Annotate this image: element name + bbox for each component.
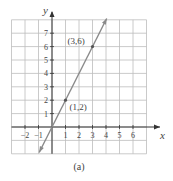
x-tick-label: 2 xyxy=(77,131,81,140)
point-label: (3,6) xyxy=(68,36,85,46)
x-tick-label: 4 xyxy=(104,131,108,140)
figure-caption: (a) xyxy=(73,161,84,173)
line-arrow-start-icon xyxy=(39,146,44,152)
y-axis-label: y xyxy=(42,4,48,16)
y-axis-arrow-icon xyxy=(50,11,55,17)
point-label: (1,2) xyxy=(70,102,87,112)
x-axis-label: x xyxy=(159,129,165,141)
x-tick-label: 5 xyxy=(118,131,122,140)
y-tick-label: 6 xyxy=(44,43,48,52)
x-tick-label: −1 xyxy=(34,131,43,140)
x-tick-label: 6 xyxy=(131,131,135,140)
y-tick-label: 1 xyxy=(44,110,48,119)
y-tick-label: 3 xyxy=(44,83,48,92)
point-marker xyxy=(91,45,94,48)
point-marker xyxy=(64,99,67,102)
y-tick-label: 5 xyxy=(44,56,48,65)
x-tick-label: 1 xyxy=(64,131,68,140)
x-tick-label: 3 xyxy=(91,131,95,140)
x-tick-label: −2 xyxy=(21,131,30,140)
y-tick-label: 7 xyxy=(44,29,48,38)
coordinate-plane: −2−11234561234567 (1,2)(3,6) x y (a) xyxy=(0,0,173,181)
y-tick-label: 4 xyxy=(44,69,48,78)
tick-labels: −2−11234561234567 xyxy=(21,29,135,140)
y-tick-label: 2 xyxy=(44,96,48,105)
